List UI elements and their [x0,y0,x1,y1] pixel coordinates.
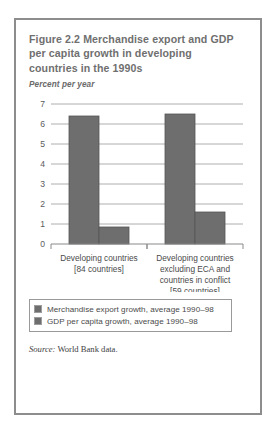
y-tick-label: 0 [40,239,45,249]
chart-plot-area: 01234567 Developing countries[84 countri… [29,96,251,292]
source-label: Source: [29,344,55,354]
y-axis-tick-labels: 01234567 [40,99,45,249]
y-tick-label: 7 [40,99,45,109]
bar-chart: 01234567 Developing countries[84 countri… [29,96,251,292]
y-tick-label: 5 [40,139,45,149]
figure-frame: Figure 2.2 Merchandise export and GDP pe… [14,18,262,415]
figure-title: Figure 2.2 Merchandise export and GDP pe… [29,32,237,75]
bar [165,114,195,244]
category-label-line: countries in conflict [160,275,231,285]
y-tick-label: 2 [40,199,45,209]
category-label-line: [59 countries] [170,286,220,292]
source-note: Source: World Bank data. [29,344,247,354]
legend-item: Merchandise export growth, average 1990–… [34,304,227,315]
bar [69,116,99,244]
legend-swatch-merchandise-export [34,305,42,313]
category-label-line: [84 countries] [74,264,124,274]
figure-subtitle: Percent per year [29,80,247,89]
figure-inner: Figure 2.2 Merchandise export and GDP pe… [16,20,260,413]
bar [195,212,225,244]
x-axis-baseline [51,244,243,249]
bar [99,227,129,244]
legend-item: GDP per capita growth, average 1990–98 [34,316,227,327]
legend-label-gdp-per-capita: GDP per capita growth, average 1990–98 [47,317,198,326]
source-text: World Bank data. [55,344,117,354]
chart-legend: Merchandise export growth, average 1990–… [29,299,232,332]
x-axis-category-labels: Developing countries[84 countries]Develo… [60,253,233,292]
y-tick-label: 3 [40,179,45,189]
y-tick-label: 4 [40,159,45,169]
y-tick-label: 1 [40,219,45,229]
category-label-line: Developing countries [60,253,137,263]
legend-swatch-gdp-per-capita [34,317,42,325]
y-tick-label: 6 [40,119,45,129]
legend-label-merchandise-export: Merchandise export growth, average 1990–… [47,305,214,314]
category-label-line: excluding ECA and [160,264,230,274]
category-label-line: Developing countries [156,253,233,263]
